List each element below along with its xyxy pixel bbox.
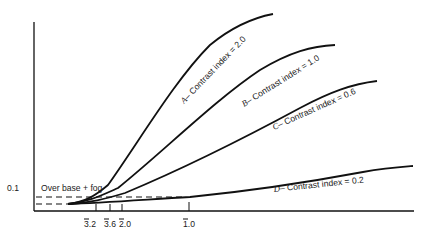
fog-annotation: Over base + fog xyxy=(41,183,103,193)
curve-c-label: C– Contrast index = 0.6 xyxy=(271,86,358,132)
x-tick-label-4: 1.0 xyxy=(183,219,195,229)
curve-b-label: B– Contrast index = 1.0 xyxy=(240,53,321,109)
x-tick-labels: 3.2 3.6 2.0 1.0 xyxy=(84,219,195,229)
y-tick-label: 0.1 xyxy=(7,183,19,193)
svg-text:B– Contrast index = 1.0: B– Contrast index = 1.0 xyxy=(240,53,321,109)
curve-d-label: D– Contrast index = 0.2 xyxy=(272,175,364,195)
svg-text:C– Contrast index = 0.6: C– Contrast index = 0.6 xyxy=(271,86,358,132)
x-tick-label-3: 2.0 xyxy=(119,219,131,229)
x-tick-label-1: 3.2 xyxy=(84,219,96,229)
curve-d xyxy=(68,166,413,204)
x-tick-label-2: 3.6 xyxy=(104,219,116,229)
characteristic-curves-chart: 0.1 Over base + fog 3.2 3.6 2.0 1.0 A– C… xyxy=(0,0,431,244)
svg-text:D– Contrast index = 0.2: D– Contrast index = 0.2 xyxy=(272,175,364,195)
